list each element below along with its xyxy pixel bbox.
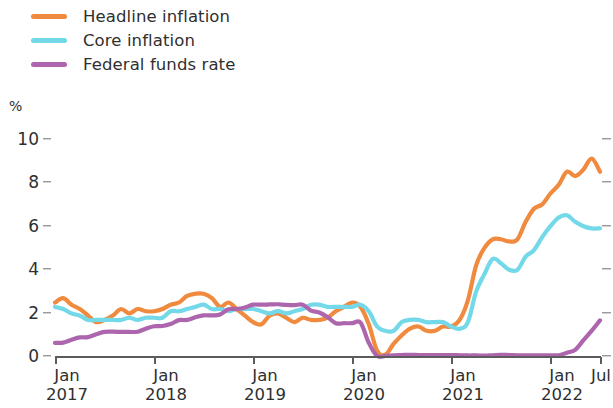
x-tick-month: Jan [450, 366, 475, 385]
x-tick-mark-2021 [451, 357, 453, 364]
x-tick-year: 2019 [244, 385, 286, 404]
series-line-core-inflation [55, 215, 600, 332]
x-tick-label-jan-2021: Jan 2021 [442, 366, 484, 404]
series-line-federal-funds-rate [55, 304, 600, 357]
series-line-headline-inflation [55, 159, 600, 356]
x-tick-mark-2018 [154, 357, 156, 364]
x-tick-label-jan-2019: Jan 2019 [244, 366, 286, 404]
plot-area [0, 0, 613, 408]
x-tick-month: Jan [351, 366, 376, 385]
x-tick-month: Jan [54, 366, 79, 385]
x-tick-mark-jul-2022 [600, 357, 602, 364]
x-axis-line [55, 356, 601, 358]
x-tick-month: Jan [153, 366, 178, 385]
x-tick-mark-2017 [55, 357, 57, 364]
x-tick-mark-2020 [352, 357, 354, 364]
x-tick-year: 2022 [541, 385, 583, 404]
x-tick-month: Jul [591, 366, 611, 385]
x-tick-label-jan-2018: Jan 2018 [145, 366, 187, 404]
inflation-rates-chart: Headline inflation Core inflation Federa… [0, 0, 613, 408]
x-tick-label-jul-2022: Jul [591, 366, 611, 385]
x-tick-year: 2017 [46, 385, 88, 404]
x-tick-month: Jan [549, 366, 574, 385]
x-tick-year: 2020 [343, 385, 385, 404]
x-tick-mark-2019 [253, 357, 255, 364]
x-tick-label-jan-2017: Jan 2017 [46, 366, 88, 404]
x-tick-year: 2018 [145, 385, 187, 404]
x-tick-mark-2022 [550, 357, 552, 364]
x-tick-year: 2021 [442, 385, 484, 404]
x-tick-label-jan-2022: Jan 2022 [541, 366, 583, 404]
x-tick-month: Jan [252, 366, 277, 385]
x-tick-label-jan-2020: Jan 2020 [343, 366, 385, 404]
